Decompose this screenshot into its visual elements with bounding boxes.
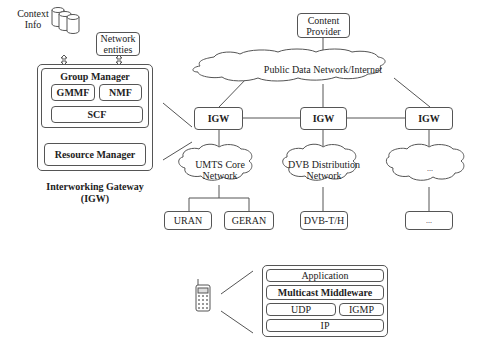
- dvb-th-box: DVB-T/H: [300, 211, 348, 230]
- resource-manager-box: Resource Manager: [44, 143, 146, 166]
- network-entities-box: Network entities: [96, 32, 140, 56]
- content-provider-box: Content Provider: [297, 13, 350, 38]
- ip-layer: IP: [266, 319, 384, 332]
- igw-box-1: IGW: [194, 107, 243, 130]
- content-provider-line2: Provider: [306, 26, 340, 37]
- uran-box: URAN: [164, 211, 212, 230]
- dvb-cloud-label-1: DVB Distribution: [284, 159, 364, 170]
- dvb-cloud-label-2: Network: [284, 170, 364, 181]
- multicast-middleware-layer: Multicast Middleware: [266, 285, 384, 300]
- geran-box: GERAN: [224, 211, 274, 230]
- database-icon: [52, 8, 79, 34]
- mobile-phone-icon: [196, 279, 210, 311]
- igmp-layer: IGMP: [339, 303, 384, 316]
- gmmf-box: GMMF: [51, 84, 95, 101]
- application-layer: Application: [266, 269, 384, 282]
- scf-box: SCF: [51, 106, 143, 123]
- igw-box-2: IGW: [300, 107, 347, 130]
- internet-cloud-label: Public Data Network/Internet: [248, 64, 398, 75]
- igw-caption-line2: (IGW): [35, 193, 155, 204]
- umts-cloud-label-1: UMTS Core: [184, 159, 256, 170]
- nmf-box: NMF: [99, 84, 142, 101]
- context-info-label: Context Info: [16, 8, 50, 30]
- igw-box-3: IGW: [405, 107, 453, 130]
- igw-caption-line1: Interworking Gateway: [35, 181, 155, 192]
- other-cloud-label: ...: [400, 163, 460, 174]
- umts-cloud-label-2: Network: [184, 170, 256, 181]
- udp-layer: UDP: [266, 303, 336, 316]
- content-provider-line1: Content: [308, 15, 340, 26]
- other-access-box: ...: [405, 211, 453, 230]
